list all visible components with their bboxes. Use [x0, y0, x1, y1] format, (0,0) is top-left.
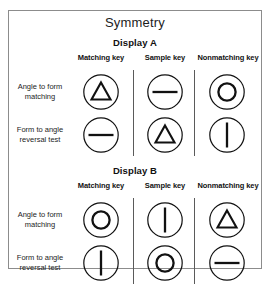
triangle-in-circle-icon	[146, 116, 184, 154]
figure-title: Symmetry	[9, 15, 261, 30]
column-header-matching-key: Matching key	[71, 181, 131, 190]
stimulus-cell	[135, 114, 195, 156]
display-b-row-angle-to-form-matching: Angle to form matching	[9, 198, 261, 241]
triangle-in-circle-icon	[82, 73, 120, 111]
stimulus-cell	[135, 242, 195, 284]
display-b-row-form-to-angle-reversal-test: Form to angle reversal test	[9, 241, 261, 284]
column-header-nonmatching-key: Nonmatching key	[195, 181, 261, 190]
row-label: Angle to form matching	[11, 82, 69, 102]
stimulus-cell	[197, 199, 257, 241]
stimulus-cell	[135, 71, 195, 113]
stimulus-cell	[71, 114, 131, 156]
triangle-in-circle-icon	[208, 201, 246, 239]
stimulus-cell	[71, 199, 131, 241]
horizontal-line-in-circle-icon	[208, 244, 246, 282]
stimulus-cell	[197, 114, 257, 156]
stimulus-cell	[71, 242, 131, 284]
display-b-block: Matching key Sample key Nonmatching key …	[9, 181, 261, 285]
horizontal-line-in-circle-icon	[82, 116, 120, 154]
display-a-title: Display A	[9, 37, 261, 48]
column-header-sample-key: Sample key	[135, 181, 195, 190]
stimulus-cell	[135, 199, 195, 241]
column-header-sample-key: Sample key	[135, 53, 195, 62]
vertical-line-in-circle-icon	[146, 201, 184, 239]
column-header-nonmatching-key: Nonmatching key	[195, 53, 261, 62]
row-label: Form to angle reversal test	[11, 125, 69, 145]
display-a-column-headers: Matching key Sample key Nonmatching key	[9, 53, 261, 68]
display-b-column-headers: Matching key Sample key Nonmatching key	[9, 181, 261, 196]
stimulus-cell	[71, 71, 131, 113]
stimulus-cell	[197, 242, 257, 284]
circle-in-circle-icon	[146, 244, 184, 282]
display-a-row-form-to-angle-reversal-test: Form to angle reversal test	[9, 113, 261, 156]
display-a-block: Matching key Sample key Nonmatching key …	[9, 53, 261, 157]
stimulus-cell	[197, 71, 257, 113]
horizontal-line-in-circle-icon	[146, 73, 184, 111]
circle-in-circle-icon	[82, 201, 120, 239]
row-label: Form to angle reversal test	[11, 253, 69, 273]
display-a-row-angle-to-form-matching: Angle to form matching	[9, 70, 261, 113]
column-header-matching-key: Matching key	[71, 53, 131, 62]
row-label: Angle to form matching	[11, 210, 69, 230]
vertical-line-in-circle-icon	[82, 244, 120, 282]
symmetry-figure: Symmetry Display A Matching key Sample k…	[8, 10, 262, 269]
vertical-line-in-circle-icon	[208, 116, 246, 154]
circle-in-circle-icon	[208, 73, 246, 111]
display-b-title: Display B	[9, 165, 261, 176]
